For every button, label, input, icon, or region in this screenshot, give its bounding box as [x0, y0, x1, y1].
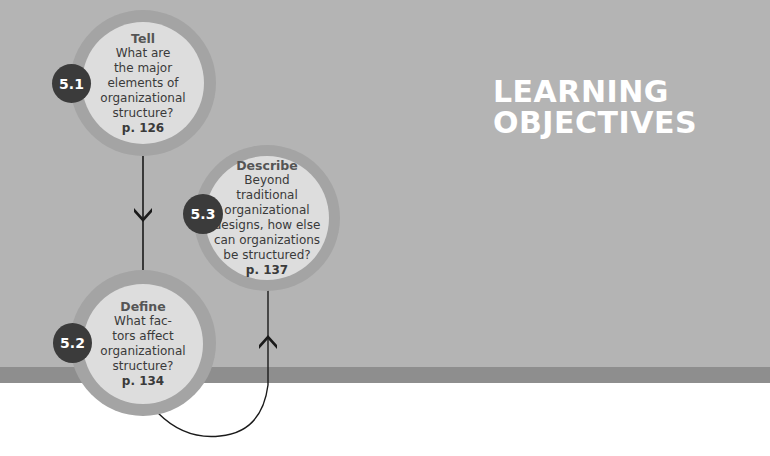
chevron-down-icon	[132, 205, 154, 223]
objective-line: be structured?	[223, 248, 310, 263]
objective-line: organizational	[100, 91, 185, 106]
objective-line: structure?	[113, 359, 174, 374]
page-reference[interactable]: p. 137	[246, 263, 288, 278]
objective-line: designs, how else	[214, 218, 321, 233]
objective-5-1-circle[interactable]: Tell What are the major elements of orga…	[82, 22, 204, 144]
objective-line: What fac-	[114, 314, 172, 329]
chevron-up-icon	[257, 334, 279, 352]
objective-line: can organizations	[214, 233, 320, 248]
objective-line: tors affect	[112, 329, 173, 344]
objective-line: What are	[116, 46, 171, 61]
objective-line: traditional	[236, 188, 298, 203]
objective-5-2-circle[interactable]: Define What fac- tors affect organizatio…	[83, 284, 203, 404]
page-reference[interactable]: p. 126	[122, 121, 164, 136]
page-reference[interactable]: p. 134	[122, 374, 164, 389]
objective-5-3-circle[interactable]: Describe Beyond traditional organization…	[205, 156, 329, 280]
objective-verb: Define	[120, 299, 166, 314]
objective-5-3-badge: 5.3	[183, 194, 223, 234]
objective-verb: Describe	[236, 158, 298, 173]
objective-5-1-badge: 5.1	[52, 64, 91, 103]
objective-verb: Tell	[131, 31, 155, 46]
objective-5-2-badge: 5.2	[53, 323, 92, 363]
objective-line: Beyond	[244, 173, 289, 188]
objective-line: structure?	[113, 106, 174, 121]
objective-line: organizational	[100, 344, 185, 359]
objective-line: elements of	[107, 76, 178, 91]
objective-line: the major	[114, 61, 172, 76]
objective-line: organizational	[224, 203, 309, 218]
